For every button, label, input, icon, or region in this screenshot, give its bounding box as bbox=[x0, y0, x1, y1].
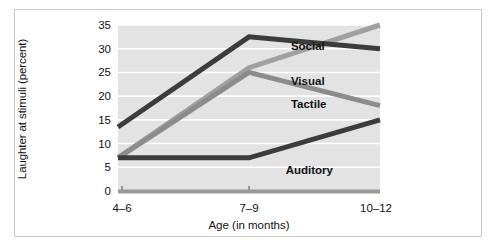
y-axis-tick-label: 10 bbox=[85, 138, 111, 150]
x-axis-tick-label: 7–9 bbox=[214, 202, 284, 214]
plot-area-background bbox=[118, 25, 380, 191]
series-label-social: Social bbox=[291, 40, 325, 52]
y-axis-tick-label: 25 bbox=[85, 66, 111, 78]
y-axis-tick-label: 20 bbox=[85, 90, 111, 102]
series-label-tactile: Tactile bbox=[291, 98, 327, 110]
series-label-visual: Visual bbox=[291, 75, 325, 87]
x-axis-tick-label: 4–6 bbox=[87, 202, 157, 214]
x-axis-tick-label: 10–12 bbox=[341, 202, 411, 214]
y-axis-tick-label: 5 bbox=[85, 161, 111, 173]
y-axis-title: Laughter at stimuli (percent) bbox=[16, 24, 28, 194]
x-axis-title: Age (in months) bbox=[118, 219, 380, 231]
series-label-auditory: Auditory bbox=[286, 164, 333, 176]
y-axis-tick-label: 0 bbox=[85, 185, 111, 197]
line-chart: 05101520253035 4–67–910–12 SocialVisualT… bbox=[0, 0, 497, 248]
y-axis-tick-label: 15 bbox=[85, 114, 111, 126]
y-axis-tick-label: 30 bbox=[85, 43, 111, 55]
y-axis-tick-label: 35 bbox=[85, 19, 111, 31]
